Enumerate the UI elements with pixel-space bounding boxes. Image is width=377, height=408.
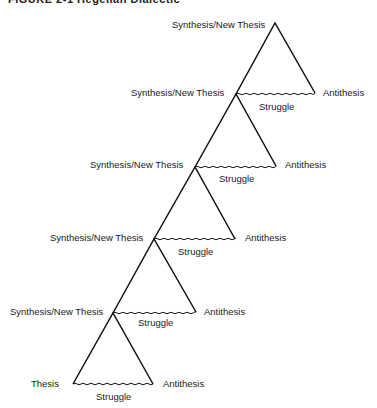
label-synthesis-top: Synthesis/New Thesis — [172, 20, 265, 30]
struggle-line-4 — [195, 166, 276, 168]
label-antithesis-level-2: Antithesis — [204, 307, 245, 317]
label-antithesis-level-3: Antithesis — [245, 233, 286, 243]
struggle-line-2 — [113, 312, 196, 314]
label-struggle-level-5: Struggle — [259, 102, 294, 112]
label-struggle-level-3: Struggle — [178, 247, 213, 257]
label-antithesis-level-4: Antithesis — [285, 160, 326, 170]
dialectic-diagram — [0, 0, 377, 408]
struggle-line-3 — [154, 238, 235, 240]
label-synthesis-level-4: Synthesis/New Thesis — [90, 160, 183, 170]
struggle-line-5 — [236, 93, 315, 95]
label-antithesis-level-5: Antithesis — [323, 88, 364, 98]
label-struggle-level-1: Struggle — [96, 392, 131, 402]
label-struggle-level-2: Struggle — [138, 318, 173, 328]
label-antithesis-level-1: Antithesis — [163, 379, 204, 389]
label-synthesis-level-2: Synthesis/New Thesis — [10, 307, 103, 317]
label-synthesis-level-5: Synthesis/New Thesis — [131, 88, 224, 98]
label-struggle-level-4: Struggle — [219, 174, 254, 184]
label-thesis-level-1: Thesis — [31, 379, 59, 389]
struggle-line-1 — [73, 383, 153, 385]
triangle-level-5 — [236, 23, 315, 94]
label-synthesis-level-3: Synthesis/New Thesis — [50, 233, 143, 243]
